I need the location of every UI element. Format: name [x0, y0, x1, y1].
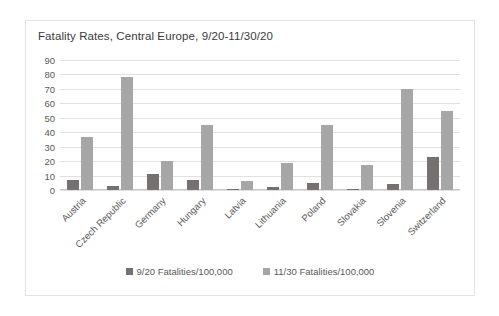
y-axis-tick-label: 40 [44, 127, 55, 138]
x-axis-category-labels: AustriaCzech RepublicGermanyHungaryLatvi… [60, 193, 460, 263]
bar[interactable] [347, 189, 359, 190]
bar[interactable] [267, 187, 279, 190]
legend-swatch-icon [263, 268, 270, 275]
bar-groups [60, 60, 460, 190]
x-axis-category-label: Latvia [222, 195, 248, 221]
bar[interactable] [307, 183, 319, 190]
x-axis-category-label: Poland [299, 195, 328, 224]
chart-container: Fatality Rates, Central Europe, 9/20-11/… [25, 20, 475, 296]
x-axis-category-slot: Czech Republic [100, 193, 140, 263]
x-axis-category-slot: Lithuania [260, 193, 300, 263]
y-axis-tick-label: 50 [44, 112, 55, 123]
x-axis-category-label: Austria [59, 195, 88, 224]
y-axis-tick-label: 10 [44, 170, 55, 181]
x-axis-category-label: Slovenia [374, 195, 408, 229]
bar-group [380, 60, 420, 190]
bar[interactable] [147, 174, 159, 190]
bar[interactable] [201, 125, 213, 190]
y-axis-tick-label: 60 [44, 98, 55, 109]
bar[interactable] [241, 181, 253, 190]
bar[interactable] [387, 184, 399, 190]
legend-swatch-icon [126, 268, 133, 275]
bar[interactable] [321, 125, 333, 190]
bar[interactable] [67, 180, 79, 190]
bar[interactable] [361, 165, 373, 190]
x-axis-category-slot: Germany [140, 193, 180, 263]
bar[interactable] [81, 137, 93, 190]
x-axis-category-slot: Poland [300, 193, 340, 263]
bar-group [100, 60, 140, 190]
chart-legend: 9/20 Fatalities/100,00011/30 Fatalities/… [26, 266, 474, 277]
gridline [60, 190, 460, 191]
bar-group [140, 60, 180, 190]
bar[interactable] [107, 186, 119, 190]
y-axis-tick-label: 80 [44, 69, 55, 80]
y-axis-tick-label: 30 [44, 141, 55, 152]
x-axis-category-slot: Switzerland [420, 193, 460, 263]
x-axis-category-label: Slovakia [335, 195, 368, 228]
bar-group [60, 60, 100, 190]
bar-group [340, 60, 380, 190]
bar[interactable] [427, 157, 439, 190]
bar[interactable] [441, 111, 453, 190]
y-axis-tick-label: 90 [44, 55, 55, 66]
x-axis-category-slot: Hungary [180, 193, 220, 263]
bar[interactable] [227, 189, 239, 190]
legend-label: 9/20 Fatalities/100,000 [137, 266, 233, 277]
x-axis-category-slot: Slovakia [340, 193, 380, 263]
bar-group [220, 60, 260, 190]
bar[interactable] [161, 161, 173, 190]
plot-area: 9080706050403020100 [60, 60, 460, 190]
x-axis-category-slot: Latvia [220, 193, 260, 263]
bar-group [300, 60, 340, 190]
y-axis-tick-label: 70 [44, 83, 55, 94]
y-axis-tick-label: 0 [50, 185, 55, 196]
bar[interactable] [187, 180, 199, 190]
y-axis-tick-label: 20 [44, 156, 55, 167]
bar-group [180, 60, 220, 190]
legend-item[interactable]: 11/30 Fatalities/100,000 [263, 266, 375, 277]
chart-title: Fatality Rates, Central Europe, 9/20-11/… [38, 30, 273, 42]
legend-item[interactable]: 9/20 Fatalities/100,000 [126, 266, 233, 277]
bar[interactable] [281, 163, 293, 190]
bar[interactable] [121, 77, 133, 190]
bar[interactable] [401, 89, 413, 190]
x-axis-category-label: Hungary [175, 195, 208, 228]
bar-group [420, 60, 460, 190]
legend-label: 11/30 Fatalities/100,000 [274, 266, 375, 277]
bar-group [260, 60, 300, 190]
